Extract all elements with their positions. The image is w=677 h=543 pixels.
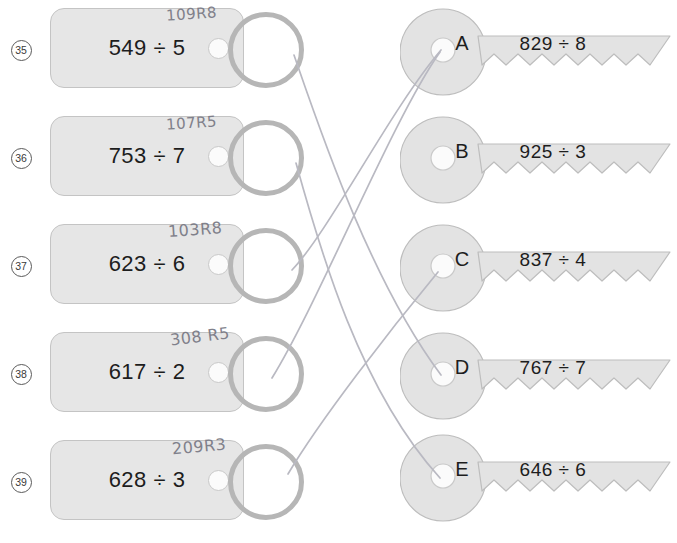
key-ring (228, 120, 304, 196)
division-problem: 767 ÷ 7 (478, 357, 628, 379)
key-letter: C (447, 248, 477, 271)
fob-hole (208, 362, 229, 383)
key-ring (228, 336, 304, 412)
key-ring (228, 12, 304, 88)
division-problem: 837 ÷ 4 (478, 249, 628, 271)
key-shape[interactable]: B 925 ÷ 3 (400, 110, 677, 210)
key-letter: B (447, 140, 477, 163)
fob-hole (208, 146, 229, 167)
division-problem: 925 ÷ 3 (478, 141, 628, 163)
question-number: 37 (8, 254, 34, 278)
question-number: 39 (8, 470, 34, 494)
key-letter: E (447, 458, 477, 481)
key-letter: A (447, 32, 477, 55)
question-number: 38 (8, 362, 34, 386)
key-shape[interactable]: D 767 ÷ 7 (400, 326, 677, 426)
tag-row: 39 628 ÷ 3 209R3 (0, 432, 340, 532)
handwritten-answer: 109R8 (165, 3, 217, 25)
tag-row: 37 623 ÷ 6 103R8 (0, 216, 340, 316)
key-letter: D (447, 356, 477, 379)
tag-row: 38 617 ÷ 2 308 R5 (0, 324, 340, 424)
key-ring (228, 444, 304, 520)
division-problem: 646 ÷ 6 (478, 459, 628, 481)
key-ring (228, 228, 304, 304)
tag-row: 36 753 ÷ 7 107R5 (0, 108, 340, 208)
key-shape[interactable]: A 829 ÷ 8 (400, 2, 677, 102)
fob-hole (208, 38, 229, 59)
question-number: 35 (8, 38, 34, 62)
division-problem: 829 ÷ 8 (478, 33, 628, 55)
key-shape[interactable]: C 837 ÷ 4 (400, 218, 677, 318)
worksheet-page: 35 549 ÷ 5 109R8 36 753 ÷ 7 107R5 37 623… (0, 0, 677, 543)
handwritten-answer: 103R8 (167, 218, 223, 241)
question-number: 36 (8, 146, 34, 170)
handwritten-answer: 107R5 (165, 112, 217, 134)
key-shape[interactable]: E 646 ÷ 6 (400, 428, 677, 528)
fob-hole (208, 470, 229, 491)
tag-row: 35 549 ÷ 5 109R8 (0, 0, 340, 100)
fob-hole (208, 254, 229, 275)
